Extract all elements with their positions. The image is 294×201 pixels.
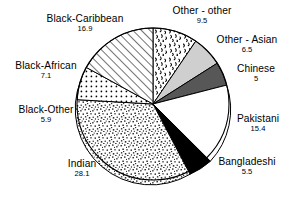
pie-label-black-african: Black-African 7.1	[0, 60, 92, 80]
pie-label-pakistani: Pakistani 15.4	[222, 113, 294, 133]
pie-label-value: 5.5	[200, 168, 294, 177]
pie-label-indian: Indian 28.1	[42, 158, 122, 178]
pie-label-name: Other - Asian	[200, 34, 294, 45]
pie-label-bangladeshi: Bangladeshi 5.5	[200, 156, 294, 176]
pie-label-other-asian: Other - Asian 6.5	[200, 34, 294, 54]
pie-label-name: Pakistani	[222, 113, 294, 124]
pie-label-value: 6.5	[200, 46, 294, 55]
pie-label-chinese: Chinese 5	[218, 63, 294, 83]
pie-label-value: 15.4	[222, 125, 294, 134]
pie-label-name: Other - other	[154, 5, 250, 16]
pie-label-name: Black-Caribbean	[30, 13, 140, 24]
pie-label-name: Indian	[42, 158, 122, 169]
pie-label-value: 5.9	[1, 116, 91, 125]
pie-label-value: 7.1	[0, 72, 92, 81]
pie-label-other-other: Other - other 9.5	[154, 5, 250, 25]
pie-label-black-other: Black-Other 5.9	[1, 104, 91, 124]
pie-label-name: Black-Other	[1, 104, 91, 115]
pie-chart-figure: Other - other 9.5 Other - Asian 6.5 Chin…	[0, 0, 294, 201]
pie-label-value: 9.5	[154, 17, 250, 26]
pie-label-name: Black-African	[0, 60, 92, 71]
pie-label-name: Chinese	[218, 63, 294, 74]
pie-label-name: Bangladeshi	[200, 156, 294, 167]
pie-label-value: 5	[218, 75, 294, 84]
pie-label-value: 16.9	[30, 25, 140, 34]
pie-label-black-caribbean: Black-Caribbean 16.9	[30, 13, 140, 33]
pie-label-value: 28.1	[42, 170, 122, 179]
